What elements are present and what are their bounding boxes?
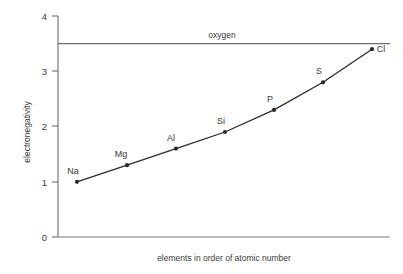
y-tick-label-4: 4: [42, 11, 47, 22]
y-axis-title: electronegativity: [22, 101, 32, 163]
data-label-na: Na: [67, 166, 79, 176]
data-point-na: [75, 180, 79, 184]
chart-container: 0 1 2 3 4 oxygen Na Mg Al Si P S Cl elem…: [0, 0, 403, 274]
y-tick-label-1: 1: [42, 177, 47, 188]
oxygen-reference-label: oxygen: [208, 30, 236, 40]
data-label-cl: Cl: [377, 44, 386, 54]
data-label-mg: Mg: [115, 149, 128, 159]
data-point-mg: [125, 163, 129, 167]
data-label-si: Si: [217, 116, 225, 126]
data-point-al: [174, 147, 178, 151]
data-label-s: S: [316, 66, 322, 76]
x-axis-title: elements in order of atomic number: [157, 253, 291, 263]
y-tick-label-3: 3: [42, 66, 47, 77]
data-point-s: [321, 80, 325, 84]
data-label-al: Al: [167, 133, 175, 143]
y-tick-label-2: 2: [42, 121, 47, 132]
electronegativity-line-chart: 0 1 2 3 4 oxygen Na Mg Al Si P S Cl elem…: [0, 0, 403, 274]
data-point-p: [272, 108, 276, 112]
data-point-cl: [370, 47, 374, 51]
data-label-p: P: [267, 94, 273, 104]
y-tick-label-0: 0: [42, 232, 47, 243]
data-point-si: [223, 130, 227, 134]
